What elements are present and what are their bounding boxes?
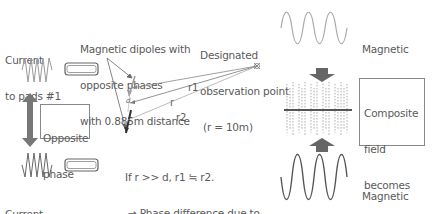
current-2-wave-icon xyxy=(22,153,52,177)
distance-lines xyxy=(128,66,257,120)
current-1-wave-icon xyxy=(22,58,52,82)
coil-pad-2-icon xyxy=(65,159,98,171)
down-arrow-icon xyxy=(309,68,335,82)
diagram-graphics xyxy=(0,0,442,214)
dipole-2-icon xyxy=(124,110,131,133)
magnetic-field-1-wave-icon xyxy=(281,12,347,44)
coil-pad-1-icon xyxy=(65,63,98,75)
magnetic-field-2-wave-icon xyxy=(281,155,347,200)
dipole-1-icon xyxy=(127,76,135,96)
opposite-phase-double-arrow-icon xyxy=(22,93,38,147)
up-arrow-icon xyxy=(309,138,335,152)
observation-point-icon xyxy=(254,63,260,69)
composite-field-icon xyxy=(284,82,352,136)
